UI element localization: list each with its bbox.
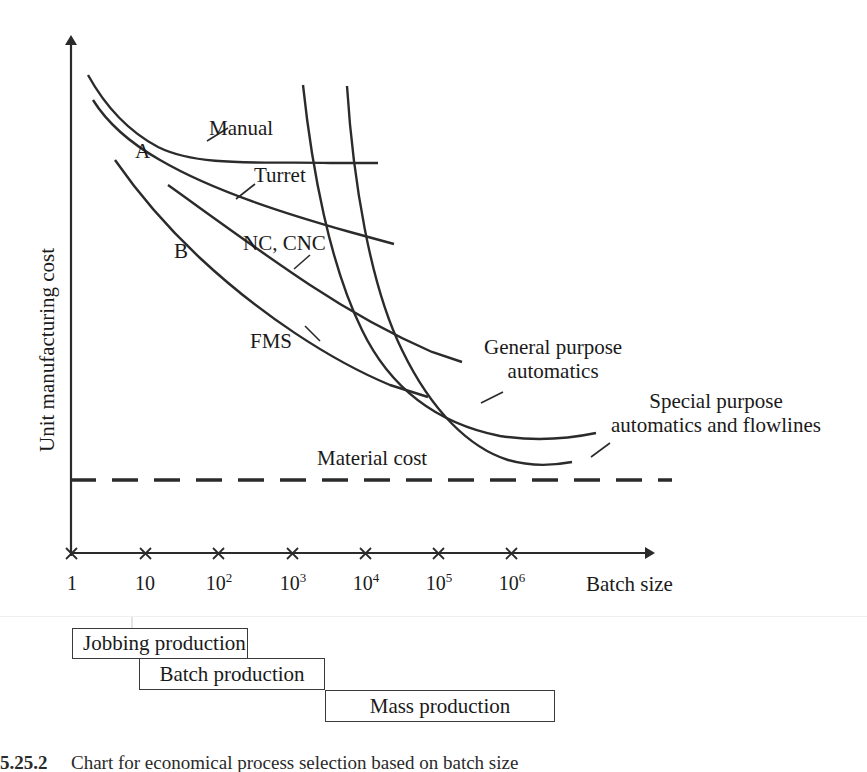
x-tick-label-1: 1 [52,572,92,594]
material-cost-label: Material cost [317,447,427,471]
curve-label-manual: Manual [209,117,273,141]
y-axis-title: Unit manufacturing cost [36,248,60,452]
figure-container: Unit manufacturing cost Batch size 1 10 … [0,0,867,772]
band-mass-production: Mass production [325,690,555,722]
curve-general-purpose-automatics [303,85,596,439]
band-batch-label: Batch production [159,662,304,687]
x-tick-label-1e3: 103 [271,572,315,594]
special-purpose-line-1: Special purpose [611,390,821,414]
x-tick-label-1e2: 102 [197,572,241,594]
band-jobbing-production: Jobbing production [72,628,248,659]
band-batch-production: Batch production [139,658,325,690]
special-purpose-line-2: automatics and flowlines [611,414,821,438]
general-purpose-line-1: General purpose [484,336,622,360]
section-divider [0,616,867,617]
curve-label-special-purpose-automatics: Special purpose automatics and flowlines [611,390,821,437]
figure-caption: 5.25.2 Chart for economical process sele… [0,752,867,772]
x-tick-label-1e5: 105 [417,572,461,594]
leader-nc-cnc [294,255,310,269]
x-axis-title: Batch size [586,573,673,597]
general-purpose-line-2: automatics [484,360,622,384]
curve-label-fms: FMS [250,330,292,354]
point-b-label: B [174,240,188,264]
band-jobbing-label: Jobbing production [73,631,246,656]
figure-caption-text: Chart for economical process selection b… [71,752,518,772]
x-tick-label-1e6: 106 [490,572,534,594]
curve-label-nc-cnc: NC, CNC [243,232,326,256]
curve-special-purpose-automatics [347,86,572,465]
x-tick-label-10: 10 [125,572,165,594]
point-a-label: A [135,140,150,164]
leader-general-purpose [481,392,503,403]
leader-special-purpose [591,443,610,457]
curve-label-general-purpose-automatics: General purpose automatics [484,336,622,383]
figure-caption-number: 5.25.2 [0,752,48,772]
leader-turret [236,184,255,199]
x-tick-label-1e4: 104 [344,572,388,594]
curve-label-turret: Turret [254,164,306,188]
band-mass-label: Mass production [370,694,511,719]
leader-fms [305,326,320,341]
